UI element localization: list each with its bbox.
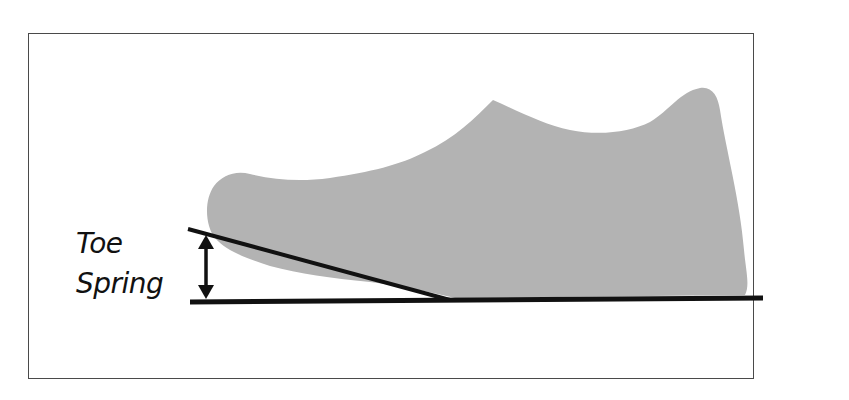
ground-line (190, 298, 763, 302)
toe-spring-diagram (0, 0, 849, 400)
measurement-arrow-icon (198, 235, 214, 299)
shoe-silhouette (207, 88, 747, 298)
toe-label: Toe (76, 230, 123, 258)
spring-label: Spring (76, 270, 163, 298)
